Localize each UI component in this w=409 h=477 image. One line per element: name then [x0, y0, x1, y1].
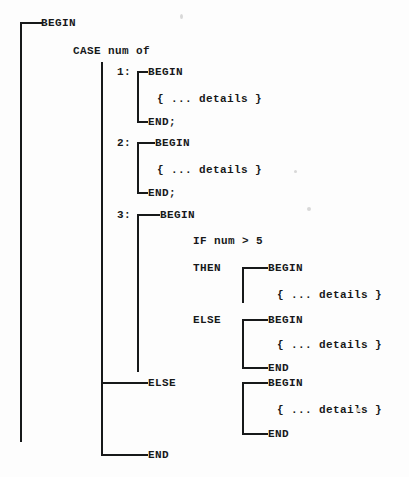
connector-then-bracket	[242, 268, 244, 303]
scan-speck	[356, 408, 361, 412]
structure-diagram-canvas: BEGIN CASE num of 1: BEGIN { ... details…	[0, 0, 409, 477]
label-then-keyword: THEN	[193, 263, 221, 274]
connector-then-begin-stub	[242, 267, 268, 269]
label-case-2-end: END;	[148, 188, 176, 199]
label-outer-begin: BEGIN	[41, 18, 76, 29]
connector-case-end-branch	[101, 454, 148, 456]
connector-case-2-bracket	[137, 143, 139, 193]
connector-case-else-begin-stub	[242, 382, 268, 384]
connector-case-else-branch	[101, 382, 148, 384]
scan-speck	[180, 14, 183, 19]
connector-case-1-end-stub	[137, 121, 148, 123]
connector-inner-else-begin-stub	[242, 319, 268, 321]
label-if-condition: IF num > 5	[193, 236, 263, 247]
label-inner-else-begin: BEGIN	[268, 315, 303, 326]
connector-case-2-begin-stub	[137, 142, 155, 144]
connector-inner-else-end-stub	[242, 367, 268, 369]
label-case-else-end: END	[268, 429, 289, 440]
connector-case-3-bracket	[137, 215, 139, 372]
label-case-2-details: { ... details }	[157, 165, 262, 176]
label-inner-else-end: END	[268, 363, 289, 374]
label-case-header: CASE num of	[73, 46, 150, 57]
connector-case-1-begin-stub	[137, 71, 148, 73]
label-case-2-begin: BEGIN	[155, 138, 190, 149]
label-case-3-selector: 3:	[117, 210, 131, 221]
connector-case-2-end-stub	[137, 192, 148, 194]
label-case-1-details: { ... details }	[157, 94, 262, 105]
label-case-end: END	[148, 450, 169, 461]
label-case-2-selector: 2:	[117, 138, 131, 149]
label-case-3-begin: BEGIN	[160, 210, 195, 221]
label-else-keyword: ELSE	[193, 315, 221, 326]
connector-case-spine	[101, 62, 103, 455]
label-then-begin: BEGIN	[268, 263, 303, 274]
connector-outer-begin-stub	[20, 22, 42, 24]
label-case-1-selector: 1:	[117, 67, 131, 78]
label-then-details: { ... details }	[277, 290, 382, 301]
scan-speck	[307, 207, 311, 211]
connector-case-1-bracket	[137, 72, 139, 122]
connector-inner-else-bracket	[242, 320, 244, 368]
label-case-else-details: { ... details }	[277, 405, 382, 416]
scan-speck	[294, 170, 297, 173]
label-inner-else-details: { ... details }	[277, 340, 382, 351]
label-case-else-begin: BEGIN	[268, 378, 303, 389]
label-case-1-end: END;	[148, 117, 176, 128]
connector-case-else-bracket	[242, 383, 244, 434]
connector-case-else-end-stub	[242, 433, 268, 435]
connector-outer-spine	[20, 23, 22, 442]
label-case-else-keyword: ELSE	[148, 378, 176, 389]
connector-case-3-begin-stub	[137, 214, 160, 216]
label-case-1-begin: BEGIN	[148, 67, 183, 78]
